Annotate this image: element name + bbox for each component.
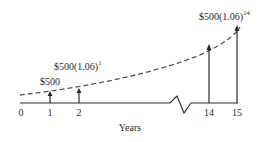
annotation-year-2: $500(1.06)1 [54, 59, 101, 73]
tick-label-0: 0 [19, 107, 24, 118]
tick-label-14: 14 [204, 107, 214, 118]
tick-label-2: 2 [77, 107, 82, 118]
tick-label-15: 15 [232, 107, 242, 118]
annotation-year-1: $500 [40, 76, 60, 87]
annotation-year-15: $500(1.06)14 [199, 9, 250, 23]
arrow-year-2 [77, 88, 82, 103]
arrow-year-14 [207, 44, 212, 103]
cash-flow-diagram: 0 1 2 14 15 Years $500 $500(1.06)1 $500(… [0, 0, 278, 142]
arrow-year-1 [48, 91, 53, 103]
arrow-year-15 [235, 25, 240, 103]
axis-title: Years [119, 122, 141, 133]
tick-label-1: 1 [48, 107, 53, 118]
